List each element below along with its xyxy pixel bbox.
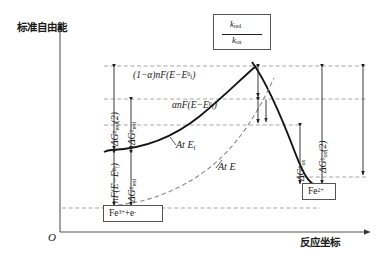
delta-g-ox-2-label: ΔG‡ox(2) [319, 141, 329, 173]
delta-g-ox-label: ΔG‡ox [297, 160, 307, 181]
rate-constant-box [213, 14, 271, 50]
cathodic-fraction-label: αnF(E−E0f) [172, 101, 217, 111]
y-axis-label: 标准自由能 [17, 22, 67, 33]
axes [60, 24, 370, 232]
delta-g-red-2-label: ΔG‡red(2) [111, 112, 121, 146]
species-right-label: Fe2+ [308, 187, 324, 197]
curve-reduced-dashed [118, 78, 274, 205]
x-axis-label: 反应坐标 [300, 237, 340, 248]
diagram-canvas [0, 0, 388, 262]
curve-label-at-ef: At Ef [176, 140, 196, 151]
free-energy-diagram: kred kox 标准自由能 反应坐标 O Fe3++e- Fe2+ At Ef… [0, 0, 388, 262]
rate-box-divider [222, 34, 262, 35]
origin-label: O [48, 232, 56, 243]
overpotential-label: nF(E−E0f) [111, 163, 121, 203]
k-ox-label: kox [232, 36, 242, 46]
delta-g-red-label: ΔG‡red [128, 122, 138, 145]
curve-left-baseline [104, 150, 112, 152]
curve-label-at-e: At E [218, 162, 236, 172]
delta-g-red-lower-label: ΔG‡red [128, 179, 138, 202]
k-red-label: kred [230, 20, 241, 30]
anodic-fraction-label: (1−α)nF(E−E0f) [133, 71, 195, 81]
species-left-label: Fe3++e- [109, 209, 136, 219]
